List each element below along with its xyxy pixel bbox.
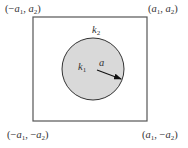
corner-label-bottom-left: (−a1, −a2) <box>7 129 49 142</box>
corner-label-bottom-right: (a1, −a2) <box>142 129 178 142</box>
corner-label-top-left: (−a1, a2) <box>5 3 41 16</box>
corner-label-top-right: (a1, a2) <box>148 3 178 16</box>
diagram-canvas: a k1 k2 (−a1, a2) (a1, a2) (−a1, −a2) (a… <box>0 0 188 148</box>
inclusion-circle <box>62 38 124 100</box>
radius-label: a <box>99 57 104 68</box>
